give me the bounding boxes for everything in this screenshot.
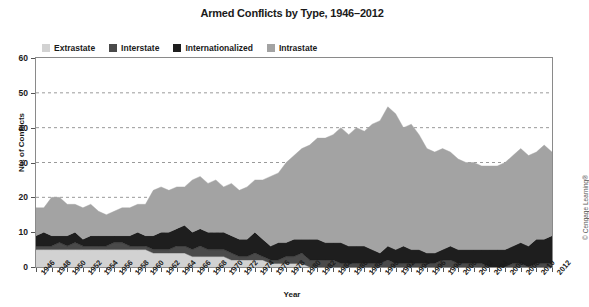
x-tick-mark	[138, 268, 139, 272]
x-tick-mark	[130, 268, 131, 272]
x-tick-mark	[161, 268, 162, 272]
x-axis-title: Year	[0, 290, 584, 299]
y-tick-label: 0	[10, 262, 28, 272]
y-tick-label: 40	[10, 123, 28, 133]
x-tick-mark	[59, 268, 60, 272]
x-tick-mark	[372, 268, 373, 272]
copyright-notice: © Cengage Learning®	[582, 175, 589, 240]
legend-item-extrastate: Extrastate	[42, 43, 95, 53]
x-tick-mark	[396, 268, 397, 272]
x-tick-mark	[411, 268, 412, 272]
legend-item-intrastate: Intrastate	[267, 43, 317, 53]
x-tick-mark	[106, 268, 107, 272]
x-tick-mark	[271, 268, 272, 272]
x-tick-mark	[317, 268, 318, 272]
x-tick-mark	[325, 268, 326, 272]
x-tick-mark	[505, 268, 506, 272]
x-tick-mark	[544, 268, 545, 272]
x-tick-mark	[521, 268, 522, 272]
y-tick-label: 60	[10, 53, 28, 63]
x-tick-mark	[333, 268, 334, 272]
x-tick-mark	[310, 268, 311, 272]
x-tick-mark	[263, 268, 264, 272]
x-tick-mark	[36, 268, 37, 272]
y-tick-mark	[31, 197, 35, 198]
y-tick-label: 30	[10, 158, 28, 168]
x-tick-mark	[536, 268, 537, 272]
x-tick-mark	[529, 268, 530, 272]
x-tick-mark	[341, 268, 342, 272]
x-tick-mark	[388, 268, 389, 272]
y-tick-label: 20	[10, 192, 28, 202]
y-tick-label: 10	[10, 227, 28, 237]
legend-item-internationalized: Internationalized	[173, 43, 253, 53]
legend-swatch-icon	[267, 44, 275, 52]
x-tick-mark	[44, 268, 45, 272]
x-tick-mark	[466, 268, 467, 272]
x-tick-mark	[255, 268, 256, 272]
x-tick-mark	[91, 268, 92, 272]
x-tick-mark	[450, 268, 451, 272]
x-tick-mark	[83, 268, 84, 272]
x-tick-mark	[192, 268, 193, 272]
y-tick-mark	[31, 58, 35, 59]
legend-item-interstate: Interstate	[109, 43, 159, 53]
x-tick-mark	[489, 268, 490, 272]
x-tick-mark	[224, 268, 225, 272]
x-tick-mark	[286, 268, 287, 272]
y-tick-mark	[31, 128, 35, 129]
x-tick-mark	[482, 268, 483, 272]
legend-swatch-icon	[42, 44, 50, 52]
x-tick-mark	[497, 268, 498, 272]
x-tick-mark	[357, 268, 358, 272]
y-tick-mark	[31, 267, 35, 268]
x-tick-mark	[231, 268, 232, 272]
x-tick-mark	[349, 268, 350, 272]
x-tick-mark	[474, 268, 475, 272]
x-tick-mark	[145, 268, 146, 272]
x-tick-mark	[177, 268, 178, 272]
x-tick-mark	[552, 268, 553, 272]
x-tick-mark	[278, 268, 279, 272]
x-tick-mark	[208, 268, 209, 272]
y-tick-label: 50	[10, 88, 28, 98]
legend-label: Intrastate	[279, 43, 317, 53]
legend-label: Extrastate	[54, 43, 95, 53]
legend-swatch-icon	[173, 44, 181, 52]
x-tick-mark	[114, 268, 115, 272]
x-tick-mark	[443, 268, 444, 272]
x-tick-mark	[513, 268, 514, 272]
x-tick-mark	[99, 268, 100, 272]
x-tick-mark	[247, 268, 248, 272]
x-tick-mark	[458, 268, 459, 272]
x-tick-mark	[427, 268, 428, 272]
x-tick-mark	[239, 268, 240, 272]
legend-swatch-icon	[109, 44, 117, 52]
x-tick-mark	[67, 268, 68, 272]
y-tick-mark	[31, 232, 35, 233]
chart-legend: ExtrastateInterstateInternationalizedInt…	[42, 43, 317, 53]
x-tick-mark	[419, 268, 420, 272]
legend-label: Interstate	[121, 43, 159, 53]
x-tick-mark	[216, 268, 217, 272]
x-tick-mark	[185, 268, 186, 272]
x-tick-mark	[294, 268, 295, 272]
legend-label: Internationalized	[185, 43, 253, 53]
x-tick-mark	[435, 268, 436, 272]
x-tick-mark	[122, 268, 123, 272]
x-tick-mark	[52, 268, 53, 272]
x-tick-mark	[75, 268, 76, 272]
x-tick-mark	[302, 268, 303, 272]
x-tick-mark	[200, 268, 201, 272]
x-tick-mark	[153, 268, 154, 272]
y-tick-mark	[31, 93, 35, 94]
x-tick-mark	[403, 268, 404, 272]
x-tick-mark	[169, 268, 170, 272]
y-tick-mark	[31, 163, 35, 164]
x-tick-mark	[380, 268, 381, 272]
x-tick-mark	[364, 268, 365, 272]
